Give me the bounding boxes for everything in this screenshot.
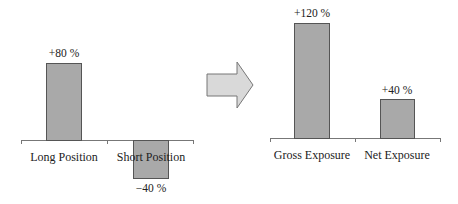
bar-net-exposure xyxy=(380,99,415,139)
left-axis-tick xyxy=(107,140,108,144)
category-label-short-position: Short Position xyxy=(117,150,185,165)
category-label-gross-exposure: Gross Exposure xyxy=(274,148,350,163)
value-label-gross-exposure: +120 % xyxy=(294,7,330,19)
category-label-net-exposure: Net Exposure xyxy=(364,148,430,163)
bar-gross-exposure xyxy=(294,23,330,139)
value-label-net-exposure: +40 % xyxy=(382,84,412,96)
left-axis-tick xyxy=(21,140,22,144)
right-axis-tick xyxy=(270,138,271,142)
right-axis-tick xyxy=(355,138,356,142)
value-label-long-position: +80 % xyxy=(49,47,79,59)
right-arrow-icon xyxy=(205,60,255,110)
bar-long-position xyxy=(46,63,82,141)
category-label-long-position: Long Position xyxy=(30,150,98,165)
left-axis-tick xyxy=(193,140,194,144)
right-axis-tick xyxy=(440,138,441,142)
value-label-short-position: −40 % xyxy=(136,182,166,194)
